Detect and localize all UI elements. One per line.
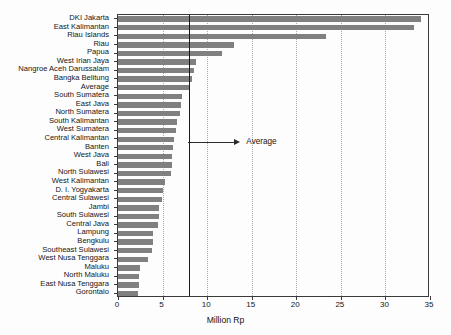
plot-area — [117, 14, 429, 297]
bar — [118, 34, 326, 39]
bar — [118, 282, 139, 287]
x-tick-label: 25 — [335, 300, 344, 309]
bar — [118, 231, 153, 236]
bar — [118, 179, 165, 184]
gridline-20 — [296, 15, 297, 296]
bar — [118, 291, 138, 296]
bar — [118, 111, 180, 116]
gridline-30 — [385, 15, 386, 296]
bar — [118, 214, 159, 219]
bar — [118, 162, 172, 167]
bar — [118, 188, 163, 193]
bar — [118, 25, 414, 30]
bar — [118, 257, 148, 262]
x-tick-label: 10 — [202, 300, 211, 309]
bar — [118, 119, 177, 124]
bar — [118, 137, 174, 142]
bar — [118, 59, 196, 64]
bar — [118, 239, 153, 244]
x-tick-label: 35 — [425, 300, 434, 309]
gridline-10 — [207, 15, 208, 296]
average-reference-line — [189, 15, 190, 296]
x-tick-label: 5 — [159, 300, 163, 309]
bar — [118, 145, 173, 150]
x-tick-label: 15 — [246, 300, 255, 309]
bar — [118, 102, 181, 107]
chart-figure: DKI JakartaEast KalimantanRiau IslandsRi… — [0, 0, 451, 335]
bar — [118, 51, 222, 56]
bar — [118, 248, 152, 253]
x-tick-label: 0 — [115, 300, 119, 309]
y-tick-label: Gorontalo — [76, 288, 109, 297]
x-tick-label: 20 — [291, 300, 300, 309]
y-axis-category-labels: DKI JakartaEast KalimantanRiau IslandsRi… — [0, 14, 113, 297]
bar — [118, 205, 159, 210]
arrow-head-icon — [234, 139, 240, 145]
bar — [118, 265, 140, 270]
bar — [118, 171, 171, 176]
bar — [118, 68, 194, 73]
bar — [118, 94, 182, 99]
x-tick-label: 30 — [380, 300, 389, 309]
x-axis-title: Million Rp — [0, 315, 451, 325]
bar — [118, 154, 172, 159]
gridline-15 — [252, 15, 253, 296]
bar — [118, 128, 176, 133]
arrow-line-icon — [188, 142, 236, 143]
bar — [118, 274, 139, 279]
bar — [118, 85, 189, 90]
bar — [118, 42, 234, 47]
bar — [118, 16, 421, 21]
bar — [118, 76, 192, 81]
gridline-25 — [341, 15, 342, 296]
bar — [118, 222, 158, 227]
bar — [118, 197, 162, 202]
average-annotation-label: Average — [246, 137, 276, 146]
